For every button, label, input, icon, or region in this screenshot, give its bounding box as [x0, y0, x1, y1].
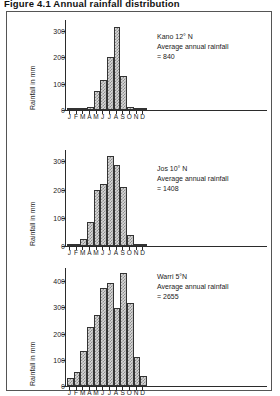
bar-slot: [107, 150, 114, 246]
bar-slot: [107, 268, 114, 386]
bar-slot: [94, 268, 101, 386]
bar-s-8: [120, 187, 127, 246]
bar-m-4: [94, 315, 101, 386]
bar-slot: [87, 150, 94, 246]
y-axis-tick: [62, 218, 66, 219]
bar-slot: [80, 268, 87, 386]
bar-slot: [67, 268, 74, 386]
bar-a-7: [114, 308, 121, 386]
bar-j-0: [67, 108, 74, 110]
x-axis-month-label: J: [101, 389, 104, 396]
bar-s-8: [120, 273, 127, 386]
y-axis-tick: [62, 84, 66, 85]
x-axis-month-label: J: [68, 113, 71, 120]
figure-frame: 0100200300Rainfall in mmJFMAMJJASONDKano…: [6, 11, 272, 391]
bar-j-5: [100, 184, 107, 246]
annotation-average-value: = 1408: [157, 184, 228, 194]
bar-slot: [114, 150, 121, 246]
bar-j-5: [100, 288, 107, 386]
bar-slot: [100, 20, 107, 110]
bar-j-0: [67, 378, 74, 386]
bar-a-7: [114, 165, 121, 246]
y-axis-tick: [62, 281, 66, 282]
plot-area: [65, 268, 148, 387]
x-axis-month-label: M: [80, 113, 85, 120]
x-axis-extension: [147, 246, 267, 247]
x-axis-month-label: D: [140, 389, 145, 396]
bar-a-3: [87, 327, 94, 386]
bar-j-0: [67, 244, 74, 246]
y-axis-label: Rainfall in mm: [29, 202, 36, 246]
bar-m-4: [94, 190, 101, 246]
annotation-station-latitude: Jos 10° N: [157, 164, 228, 174]
x-axis-extension: [147, 386, 267, 387]
bar-m-2: [80, 108, 87, 110]
bar-slot: [107, 20, 114, 110]
chart-panel-jos: 0100200300Rainfall in mmJFMAMJJASONDJos …: [7, 142, 271, 264]
x-axis-month-label: J: [101, 249, 104, 256]
y-axis-tick: [62, 334, 66, 335]
bar-slot: [74, 150, 81, 246]
bar-f-1: [74, 244, 81, 246]
chart-panel-kano: 0100200300Rainfall in mmJFMAMJJASONDKano…: [7, 14, 271, 128]
bar-o-9: [127, 303, 134, 386]
bar-j-6: [107, 156, 114, 246]
chart-annotation: Kano 12° NAverage annual rainfall= 840: [157, 32, 228, 62]
bar-series: [67, 150, 147, 246]
bar-slot: [80, 20, 87, 110]
x-axis-month-label: F: [74, 113, 78, 120]
bar-d-11: [140, 244, 147, 246]
bar-a-3: [87, 222, 94, 246]
plot-area: [65, 150, 148, 247]
bar-j-5: [100, 80, 107, 110]
annotation-station-latitude: Warri 5°N: [157, 272, 228, 282]
x-axis-month-label: O: [127, 113, 132, 120]
bar-o-9: [127, 235, 134, 246]
bar-slot: [127, 150, 134, 246]
bar-slot: [94, 20, 101, 110]
bar-slot: [74, 20, 81, 110]
bar-slot: [100, 268, 107, 386]
bar-n-10: [134, 244, 141, 246]
bar-slot: [100, 150, 107, 246]
x-axis-month-label: J: [108, 389, 111, 396]
chart-panel-warri: 0100200300400Rainfall in mmJFMAMJJASONDW…: [7, 262, 271, 396]
x-axis-month-label: A: [87, 249, 91, 256]
y-axis-tick: [62, 307, 66, 308]
x-axis-month-label: M: [80, 249, 85, 256]
annotation-average-label: Average annual rainfall: [157, 282, 228, 292]
bar-slot: [74, 268, 81, 386]
y-axis-tick: [62, 246, 66, 247]
bar-slot: [114, 20, 121, 110]
x-axis-month-label: M: [80, 389, 85, 396]
bar-slot: [120, 150, 127, 246]
bar-m-2: [80, 239, 87, 246]
x-axis-month-label: J: [68, 389, 71, 396]
x-axis-month-label: F: [74, 249, 78, 256]
x-axis-month-label: O: [127, 249, 132, 256]
bar-m-4: [94, 91, 101, 110]
x-axis-month-label: A: [114, 249, 118, 256]
annotation-station-latitude: Kano 12° N: [157, 32, 228, 42]
bar-slot: [134, 268, 141, 386]
annotation-average-label: Average annual rainfall: [157, 42, 228, 52]
bar-slot: [67, 20, 74, 110]
annotation-average-label: Average annual rainfall: [157, 174, 228, 184]
bar-slot: [120, 268, 127, 386]
figure-title: Figure 4.1 Annual rainfall distribution: [4, 0, 180, 9]
x-axis-month-label: J: [108, 249, 111, 256]
x-axis-month-label: S: [121, 249, 125, 256]
bar-f-1: [74, 372, 81, 386]
x-axis-month-label: A: [87, 113, 91, 120]
bar-f-1: [74, 108, 81, 110]
plot-area: [65, 20, 148, 111]
y-axis-tick: [62, 190, 66, 191]
x-axis-month-label: F: [74, 389, 78, 396]
y-axis-tick: [62, 31, 66, 32]
x-axis-month-label: D: [140, 113, 145, 120]
bar-j-6: [107, 57, 114, 110]
bar-slot: [127, 268, 134, 386]
bar-slot: [134, 20, 141, 110]
bar-s-8: [120, 76, 127, 110]
bar-d-11: [140, 108, 147, 110]
